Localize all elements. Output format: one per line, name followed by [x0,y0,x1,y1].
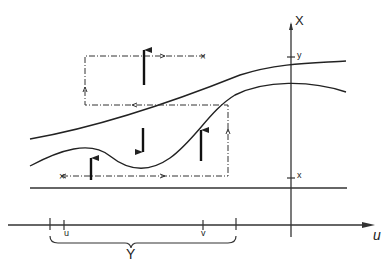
lower-curve [30,83,346,168]
vertical-axis [289,22,293,237]
diagram-canvas: X u y x u v Y × × [0,0,387,266]
tick-x-label: x [297,170,302,180]
brace-label: Y [126,246,136,262]
tick-y-label: y [297,50,302,60]
upper-curve [30,61,346,139]
upper-loop-end-mark: × [200,51,206,62]
horizontal-axis-label: u [373,227,381,243]
tick-v-label: v [201,228,206,238]
tick-u-label: u [64,228,69,238]
vertical-axis-label: X [295,13,304,28]
brace [50,236,236,248]
force-arrows [91,50,201,180]
